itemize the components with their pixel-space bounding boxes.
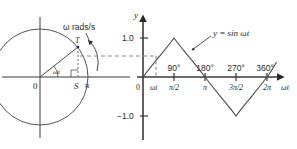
wave-x-axis-label: ωt [281,83,290,92]
y-tick-label-positive-one: 1.0 [122,33,134,43]
x-tick-label-two-pi: 2π [263,83,272,92]
point-T-label: T [75,36,80,45]
point-S-label: S [74,81,79,91]
circle-origin-label: 0 [33,81,38,91]
figure-canvas: 0 T S R ωt ω rads/s [0,0,297,149]
x-tick-label-pi: π [203,83,208,92]
x-tick-label-three-half-pi: 3π/2 [228,83,243,92]
angular-velocity-label: ω rads/s [63,22,95,32]
x-tick-label-half-pi: π/2 [169,83,179,92]
y-tick-label-negative-one: −1.0 [117,111,134,121]
wave-y-axis-label: y [133,10,138,20]
right-angle-marker [71,70,78,77]
point-R-label: R [85,82,90,90]
sine-wave-plot: y ωt 0 1.0 −1.0 ωt 90° 180° 270° 360° π/… [80,10,290,140]
phasor-angle-label: ωt [53,68,61,76]
phasor-circle-diagram: 0 T S R ωt ω rads/s [0,17,130,138]
sine-curve-equation-label: y = sin ωt [212,28,250,38]
x-tick-label-360-degrees: 360° [256,63,274,73]
x-tick-label-180-degrees: 180° [196,63,214,73]
sine-wave-phasor-figure: 0 T S R ωt ω rads/s [0,0,297,149]
wave-phase-marker-label: ωt [150,83,158,92]
x-tick-label-90-degrees: 90° [168,63,181,73]
omega-label-leader [86,33,89,40]
x-tick-label-270-degrees: 270° [227,63,245,73]
curve-label-leader [192,36,211,50]
wave-origin-label: 0 [136,83,140,92]
point-T-marker [77,46,80,49]
